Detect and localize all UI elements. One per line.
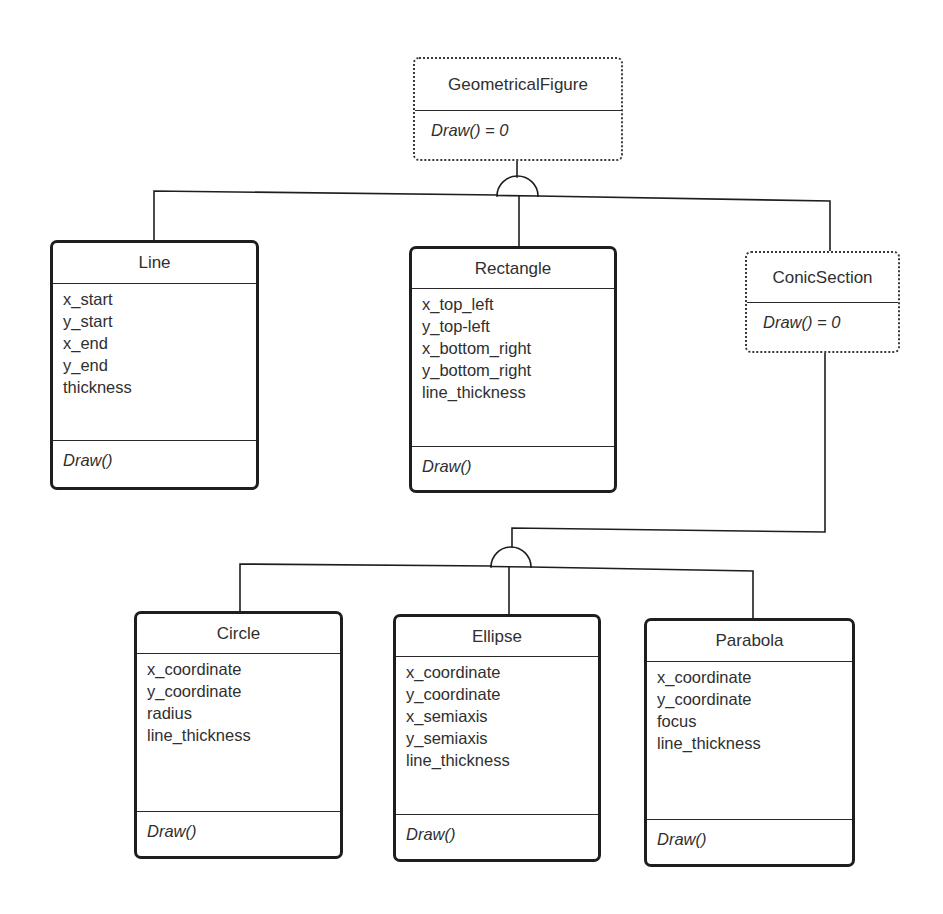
attribute: y_coordinate (147, 680, 340, 702)
class-attributes: x_coordinate y_coordinate x_semiaxis y_s… (396, 657, 598, 815)
class-methods: Draw() (137, 812, 340, 856)
method-draw: Draw() (63, 449, 256, 471)
method-draw: Draw() (422, 455, 614, 477)
attribute: y_bottom_right (422, 359, 614, 381)
class-name: Line (53, 243, 256, 284)
method-draw: Draw() (657, 828, 852, 850)
attribute: thickness (63, 376, 256, 398)
class-methods: Draw() (412, 447, 614, 490)
method-draw: Draw() = 0 (763, 311, 898, 333)
class-methods: Draw() = 0 (747, 303, 898, 351)
attribute: line_thickness (147, 724, 340, 746)
class-circle[interactable]: Circle x_coordinate y_coordinate radius … (134, 611, 343, 859)
attribute: x_top_left (422, 293, 614, 315)
class-name: ConicSection (747, 253, 898, 303)
inheritance-arc-icon (491, 547, 531, 567)
class-name: Parabola (647, 621, 852, 662)
class-methods: Draw() (396, 815, 598, 859)
class-name: GeometricalFigure (415, 59, 621, 111)
attribute: line_thickness (657, 732, 852, 754)
class-attributes: x_coordinate y_coordinate focus line_thi… (647, 662, 852, 820)
attribute: x_semiaxis (406, 705, 598, 727)
class-attributes: x_start y_start x_end y_end thickness (53, 284, 256, 441)
attribute: focus (657, 710, 852, 732)
attribute: x_coordinate (406, 661, 598, 683)
class-methods: Draw() (647, 820, 852, 864)
attribute: y_start (63, 310, 256, 332)
attribute: x_start (63, 288, 256, 310)
attribute: radius (147, 702, 340, 724)
class-parabola[interactable]: Parabola x_coordinate y_coordinate focus… (644, 618, 855, 867)
inheritance-arc-icon (497, 176, 538, 196)
attribute: x_coordinate (147, 658, 340, 680)
attribute: y_semiaxis (406, 727, 598, 749)
attribute: x_end (63, 332, 256, 354)
attribute: x_coordinate (657, 666, 852, 688)
class-ellipse[interactable]: Ellipse x_coordinate y_coordinate x_semi… (393, 614, 601, 862)
method-draw: Draw() (406, 823, 598, 845)
attribute: x_bottom_right (422, 337, 614, 359)
class-rectangle[interactable]: Rectangle x_top_left y_top-left x_bottom… (409, 246, 617, 493)
class-conicsection[interactable]: ConicSection Draw() = 0 (745, 251, 900, 353)
class-methods: Draw() (53, 441, 256, 487)
class-line[interactable]: Line x_start y_start x_end y_end thickne… (50, 240, 259, 490)
class-geometricalfigure[interactable]: GeometricalFigure Draw() = 0 (413, 57, 623, 161)
attribute: y_end (63, 354, 256, 376)
class-name: Circle (137, 614, 340, 654)
attribute: y_coordinate (406, 683, 598, 705)
class-name: Rectangle (412, 249, 614, 289)
method-draw: Draw() (147, 820, 340, 842)
class-attributes: x_coordinate y_coordinate radius line_th… (137, 654, 340, 812)
attribute: line_thickness (406, 749, 598, 771)
attribute: y_top-left (422, 315, 614, 337)
attribute: line_thickness (422, 381, 614, 403)
attribute: y_coordinate (657, 688, 852, 710)
class-methods: Draw() = 0 (415, 111, 621, 159)
class-name: Ellipse (396, 617, 598, 657)
method-draw: Draw() = 0 (431, 119, 621, 141)
connector-geometricalfigure-children (154, 161, 830, 251)
class-attributes: x_top_left y_top-left x_bottom_right y_b… (412, 289, 614, 447)
